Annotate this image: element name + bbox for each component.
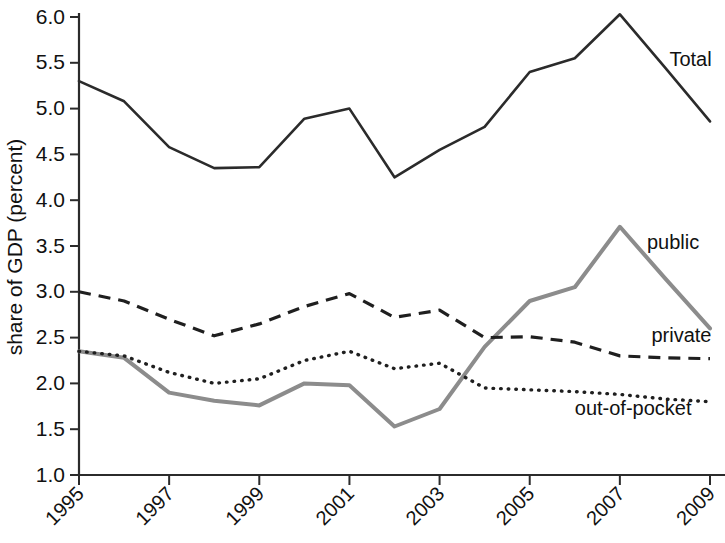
series-label-out-of-pocket: out-of-pocket [575,397,692,419]
x-tick-label: 1995 [41,482,88,529]
line-chart: 1.01.52.02.53.03.54.04.55.05.56.0 199519… [0,0,725,543]
y-axis-title: share of GDP (percent) [3,139,26,356]
chart-root: 1.01.52.02.53.03.54.04.55.05.56.0 199519… [0,0,725,543]
series-labels: Totalpublicprivateout-of-pocket [575,48,712,418]
series-lines [79,14,710,426]
y-tick-label: 3.0 [36,279,65,302]
series-line-Total [79,14,710,177]
y-axis: 1.01.52.02.53.03.54.04.55.05.56.0 [36,5,79,486]
y-tick-label: 4.0 [36,188,65,211]
series-label-private: private [651,324,711,346]
y-tick-label: 5.5 [36,50,65,73]
y-tick-label: 1.5 [36,417,65,440]
x-tick-label: 2007 [582,482,629,529]
y-tick-label: 1.0 [36,463,65,486]
x-tick-label: 1997 [131,482,178,529]
series-label-Total: Total [669,48,711,70]
x-tick-label: 2001 [311,482,358,529]
x-tick-label: 2003 [401,482,448,529]
x-tick-label: 1999 [221,482,268,529]
x-tick-label: 2005 [492,482,539,529]
y-tick-label: 5.0 [36,96,65,119]
y-tick-label: 2.0 [36,371,65,394]
y-tick-label: 3.5 [36,234,65,257]
x-tick-label: 2009 [672,482,719,529]
y-tick-label: 6.0 [36,5,65,28]
y-tick-label: 4.5 [36,142,65,165]
series-line-private [79,292,710,359]
y-tick-label: 2.5 [36,325,65,348]
x-axis: 19951997199920012003200520072009 [41,475,725,529]
series-label-public: public [647,231,699,253]
